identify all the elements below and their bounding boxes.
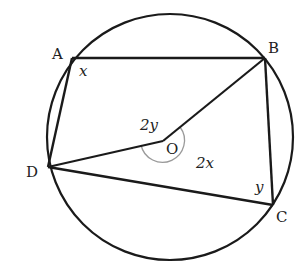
- point-label-d: D: [26, 163, 38, 181]
- angle-label-a: x: [79, 62, 88, 80]
- point-label-b: B: [268, 39, 279, 57]
- angle-label-c: y: [254, 178, 264, 196]
- segment-ob: [163, 58, 265, 141]
- side-da: [48, 58, 72, 167]
- circumcircle: [47, 14, 293, 260]
- angle-label-o-minor: 2y: [139, 116, 159, 134]
- point-label-c: C: [276, 208, 287, 226]
- point-label-o: O: [166, 140, 178, 158]
- angle-label-o-reflex: 2x: [195, 154, 215, 172]
- point-label-a: A: [51, 45, 63, 63]
- side-bc: [265, 58, 273, 205]
- cyclic-quadrilateral-diagram: A B C D O x y 2y 2x: [0, 0, 304, 270]
- side-cd: [48, 167, 273, 205]
